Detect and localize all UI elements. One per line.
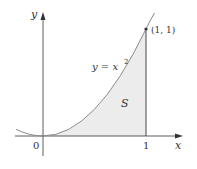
- x-axis-label: x: [175, 139, 182, 152]
- y-axis-arrow-icon: [41, 12, 46, 20]
- region-label: S: [121, 97, 129, 110]
- shaded-region-s: [43, 29, 146, 136]
- function-label-exponent: 2: [124, 58, 128, 66]
- y-axis-label: y: [30, 8, 38, 21]
- x-tick-label: 1: [143, 140, 149, 151]
- point-marker: [144, 27, 147, 30]
- x-axis-arrow-icon: [175, 134, 183, 139]
- function-label: y = x 2: [91, 58, 128, 72]
- point-label: (1, 1): [151, 25, 175, 35]
- area-under-parabola-diagram: y x 0 1 (1, 1) S y = x 2: [0, 0, 197, 169]
- origin-label: 0: [33, 140, 39, 151]
- function-label-base: y = x: [91, 61, 118, 72]
